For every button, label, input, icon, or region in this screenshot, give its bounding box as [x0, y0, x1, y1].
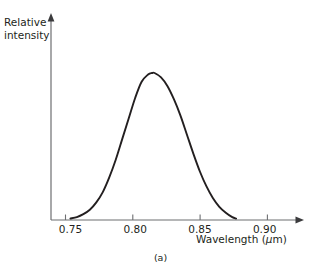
x-tick-label-0.85: 0.85	[188, 223, 211, 235]
x-tick-label-0.90: 0.90	[253, 223, 276, 235]
figure-panel: Relativeintensity Wavelength (μm) 0.750.…	[0, 0, 321, 275]
figure-caption: (a)	[0, 252, 321, 263]
x-tick-label-0.80: 0.80	[123, 223, 146, 235]
y-axis-title-line2: intensity	[4, 29, 50, 41]
x-axis-ticks	[66, 215, 268, 221]
x-axis-arrowhead	[296, 217, 305, 224]
y-axis-title: Relativeintensity	[4, 16, 50, 41]
spectrum-curve	[70, 73, 236, 219]
y-axis-title-line1: Relative	[4, 16, 46, 28]
x-tick-label-0.75: 0.75	[59, 223, 82, 235]
